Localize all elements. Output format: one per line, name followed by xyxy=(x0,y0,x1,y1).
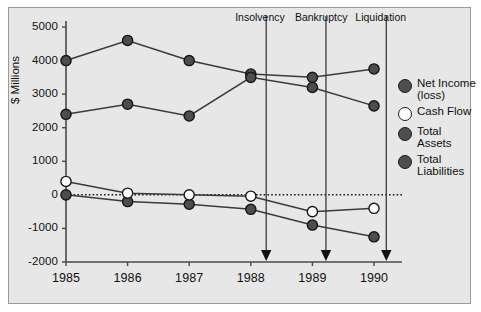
legend-item-label: Net Income (loss) xyxy=(417,78,476,101)
data-point-0-4 xyxy=(307,220,317,230)
legend-item: Net Income (loss) xyxy=(398,78,476,101)
data-point-1-1 xyxy=(123,188,133,198)
chart-figure: $ Millions 500040003000200010000-1000-20… xyxy=(0,0,481,312)
y-tick-label: 1000 xyxy=(8,154,58,166)
x-tick-label: 1990 xyxy=(346,271,402,285)
legend-marker-circle-icon xyxy=(398,107,412,121)
annotation-label-insolvency: Insolvency xyxy=(235,11,285,23)
data-point-2-5 xyxy=(369,64,379,74)
series-line-2 xyxy=(66,40,374,77)
legend-marker-circle-icon xyxy=(398,79,412,93)
annotation-label-liquidation: Liquidation xyxy=(355,11,406,23)
legend-marker-circle-icon xyxy=(398,127,412,141)
data-point-3-0 xyxy=(61,109,71,119)
chart-legend: Net Income (loss)Cash FlowTotal AssetsTo… xyxy=(398,78,476,183)
x-tick-label: 1986 xyxy=(100,271,156,285)
x-tick-label: 1987 xyxy=(161,271,217,285)
data-point-3-4 xyxy=(307,82,317,92)
data-point-1-3 xyxy=(246,191,256,201)
data-point-1-2 xyxy=(184,190,194,200)
annotation-arrowhead-1 xyxy=(321,250,331,261)
y-tick-label: -1000 xyxy=(8,221,58,233)
data-point-0-0 xyxy=(61,190,71,200)
data-point-0-3 xyxy=(246,204,256,214)
y-tick-label: 3000 xyxy=(8,87,58,99)
data-point-1-4 xyxy=(307,207,317,217)
legend-item-label: Total Liabilities xyxy=(417,154,476,177)
legend-item: Total Liabilities xyxy=(398,154,476,177)
data-point-3-5 xyxy=(369,101,379,111)
y-tick-label: -2000 xyxy=(8,255,58,267)
data-point-3-1 xyxy=(123,99,133,109)
y-tick-label: 2000 xyxy=(8,121,58,133)
x-tick-label: 1988 xyxy=(223,271,279,285)
series-line-3 xyxy=(66,77,374,116)
legend-item-label: Total Assets xyxy=(417,126,476,149)
data-point-0-2 xyxy=(184,199,194,209)
y-tick-label: 4000 xyxy=(8,54,58,66)
annotation-arrowhead-0 xyxy=(261,250,271,261)
annotation-label-bankruptcy: Bankruptcy xyxy=(295,11,348,23)
legend-item: Total Assets xyxy=(398,126,476,149)
y-tick-label: 5000 xyxy=(8,20,58,32)
data-point-2-4 xyxy=(307,72,317,82)
legend-item: Cash Flow xyxy=(398,106,476,121)
x-tick-label: 1985 xyxy=(38,271,94,285)
data-point-3-2 xyxy=(184,111,194,121)
data-point-1-5 xyxy=(369,203,379,213)
series-line-0 xyxy=(66,195,374,237)
legend-item-label: Cash Flow xyxy=(417,106,471,118)
legend-marker-circle-icon xyxy=(398,155,412,169)
data-point-3-3 xyxy=(246,72,256,82)
y-tick-label: 0 xyxy=(8,188,58,200)
annotation-arrowhead-2 xyxy=(381,250,391,261)
data-point-0-5 xyxy=(369,232,379,242)
data-point-2-2 xyxy=(184,55,194,65)
x-tick-label: 1989 xyxy=(284,271,340,285)
data-point-1-0 xyxy=(61,176,71,186)
data-point-2-1 xyxy=(123,35,133,45)
data-point-2-0 xyxy=(61,55,71,65)
